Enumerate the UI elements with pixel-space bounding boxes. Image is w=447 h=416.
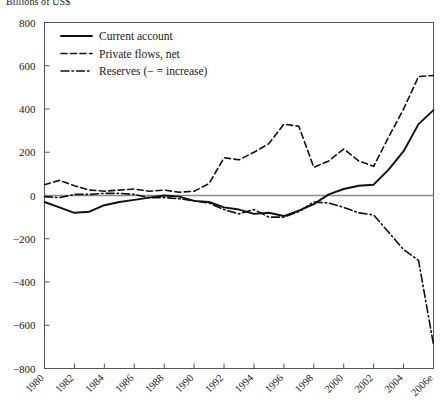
y-tick-label: −200 <box>13 233 36 245</box>
x-tick-label: 1992 <box>203 372 226 395</box>
line-chart: 8006004002000−200−400−600−800 1980198219… <box>0 0 447 416</box>
x-tick-label: 1994 <box>233 372 256 395</box>
y-axis-title: Billions of US$ <box>6 0 70 7</box>
y-tick-label: −400 <box>13 276 36 288</box>
series-line-dashed <box>45 75 434 192</box>
x-tick-label: 1990 <box>173 372 196 395</box>
y-tick-label: −600 <box>13 319 36 331</box>
x-tick-label: 2002 <box>352 372 375 395</box>
y-tick-label: 0 <box>30 190 36 202</box>
series-line-dashdot <box>45 193 434 344</box>
legend-label: Reserves (− = increase) <box>99 65 208 78</box>
y-tick-label: 800 <box>19 17 36 29</box>
y-tick-label: 600 <box>19 60 36 72</box>
y-tick-label-group: 8006004002000−200−400−600−800 <box>13 17 36 375</box>
legend-label: Current account <box>99 30 174 42</box>
data-series-group <box>45 75 434 344</box>
x-tick-label: 1996 <box>263 372 286 395</box>
x-tick-label: 1982 <box>53 372 76 395</box>
x-tick-label: 1984 <box>83 372 106 395</box>
x-tick-label: 2000 <box>323 372 346 395</box>
y-tick-label: 400 <box>19 103 36 115</box>
chart-legend: Current accountPrivate flows, netReserve… <box>61 30 208 78</box>
x-tick-label-group: 1980198219841986198819901992199419961998… <box>23 372 435 398</box>
legend-label: Private flows, net <box>99 48 181 61</box>
x-tick-label: 2006e <box>409 372 435 398</box>
y-tick-label: −800 <box>13 363 36 375</box>
y-tick-label: 200 <box>19 146 36 158</box>
chart-container: Billions of US$ 8006004002000−200−400−60… <box>0 0 447 416</box>
x-tick-label: 2004 <box>382 372 405 395</box>
x-tick-label: 1980 <box>23 372 46 395</box>
x-tick-label: 1988 <box>143 372 166 395</box>
x-tick-label: 1986 <box>113 372 136 395</box>
x-tick-label: 1998 <box>293 372 316 395</box>
x-tick-mark-group <box>45 364 434 369</box>
